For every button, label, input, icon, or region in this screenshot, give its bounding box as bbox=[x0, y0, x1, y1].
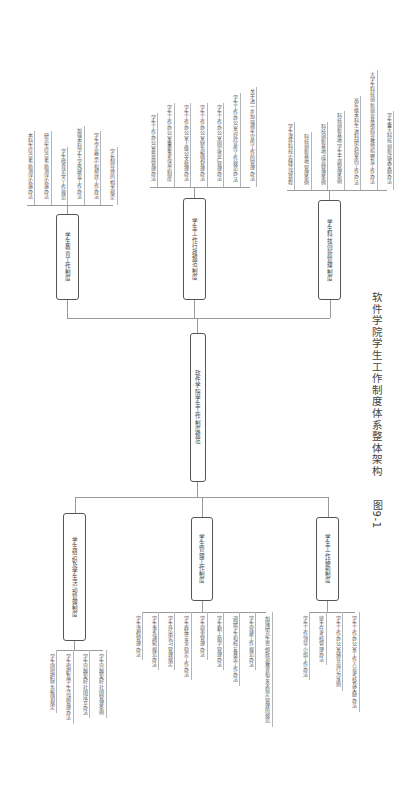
connector-root-bottom bbox=[197, 482, 198, 497]
leaf-item: 学生团组织财务报销规定 bbox=[49, 654, 56, 710]
leaf-connector bbox=[34, 131, 35, 205]
leaf-item: 学生群体安全稳定工作办法 bbox=[184, 616, 191, 677]
leaf-connector bbox=[158, 612, 159, 670]
leaf-item: 学生请假管理办法 bbox=[135, 616, 142, 657]
branch-label: 学生管理工作制度 bbox=[198, 534, 206, 584]
connector-root-top bbox=[197, 318, 198, 333]
leaf-connector bbox=[344, 111, 345, 190]
leaf-bus bbox=[142, 612, 266, 613]
leaf-item: 加强本科学生学风建设工作办法 bbox=[77, 128, 84, 199]
branch-label: 学生组织及学生活动管理制度 bbox=[71, 537, 79, 618]
leaf-connector bbox=[56, 650, 57, 713]
leaf-item: 研究生综合素质测评实施办法 bbox=[44, 133, 51, 199]
leaf-bus bbox=[57, 650, 103, 651]
leaf-item: 加强研究生思想政治教育和安全稳定管理的规范 bbox=[265, 616, 272, 723]
leaf-bus bbox=[27, 205, 113, 206]
branch-node-admin: 学生工作行政规范制度 bbox=[183, 198, 206, 300]
leaf-item: 学生勤工助学管理办法 bbox=[216, 616, 223, 667]
leaf-item: 大学生科技创新创业基地指导教师招聘及工作办法 bbox=[370, 72, 377, 184]
leaf-connector bbox=[89, 650, 90, 718]
leaf-item: 学生工作办公室上级公文处理办法 bbox=[183, 105, 190, 182]
leaf-item: 学生重大科技创新成果奖励办法 bbox=[386, 113, 393, 184]
leaf-item: 学生德育论文工作规范 bbox=[60, 149, 67, 200]
leaf-item: 学生外出实习管理规定 bbox=[167, 616, 174, 667]
leaf-item: 学生兴趣爱好社团成立办法 bbox=[82, 654, 89, 715]
leaf-connector bbox=[360, 96, 361, 190]
connector-top-3 bbox=[330, 300, 331, 318]
leaf-item: 学生课外科技实践活动章程 bbox=[287, 124, 294, 185]
branch-stem bbox=[329, 190, 330, 200]
leaf-item: 学生事务通知规范办法 bbox=[151, 616, 158, 667]
leaf-connector bbox=[190, 103, 191, 187]
leaf-connector bbox=[311, 132, 312, 190]
leaf-item: 学生工作办公室对外宣传工作规范办法 bbox=[233, 95, 240, 182]
leaf-connector bbox=[240, 93, 241, 187]
connector-bottom-4 bbox=[75, 497, 76, 513]
branch-stem bbox=[74, 641, 75, 650]
leaf-connector bbox=[377, 70, 378, 190]
branch-node-innovation: 学生科技创新管理制度 bbox=[318, 200, 341, 300]
branch-label: 学生工作行政规范制度 bbox=[191, 218, 199, 280]
leaf-connector bbox=[174, 103, 175, 187]
leaf-item: 学生党建工作规范办法 bbox=[248, 616, 255, 667]
leaf-item: 高年级本科生进科研实验室的工作办法 bbox=[353, 98, 360, 185]
leaf-connector bbox=[117, 147, 118, 205]
leaf-connector bbox=[174, 612, 175, 670]
leaf-connector bbox=[157, 113, 158, 187]
branch-label: 学生科技创新管理制度 bbox=[326, 219, 334, 281]
leaf-item: 学长制导师的相关规定 bbox=[110, 149, 117, 200]
leaf-connector bbox=[191, 612, 192, 680]
leaf-bus bbox=[287, 190, 387, 191]
leaf-connector bbox=[73, 650, 74, 724]
connector-top-2 bbox=[194, 300, 195, 318]
leaf-connector bbox=[327, 122, 328, 190]
branch-stem bbox=[194, 187, 195, 198]
caption-title: 软件学院学生工作制度体系整体架构 bbox=[370, 292, 382, 478]
leaf-connector bbox=[207, 612, 208, 660]
leaf-connector bbox=[272, 612, 273, 727]
leaf-item: 本科生综合素质测评实施办法 bbox=[27, 133, 34, 199]
leaf-connector bbox=[106, 650, 107, 718]
branch-node-management: 学生管理工作制度 bbox=[191, 517, 213, 601]
connector-top-bus bbox=[67, 318, 330, 319]
leaf-connector bbox=[223, 612, 224, 670]
connector-bottom-6 bbox=[328, 497, 329, 517]
leaf-connector bbox=[359, 612, 360, 712]
leaf-connector bbox=[84, 126, 85, 205]
branch-label: 学生工作辅助制度 bbox=[324, 534, 332, 584]
connector-top-1 bbox=[67, 300, 68, 318]
branch-node-education: 学生教育工作制度 bbox=[56, 214, 79, 300]
leaf-item: 学生学业警示和帮扶工作办法 bbox=[93, 133, 100, 199]
figure-caption: 软件学院学生工作制度体系整体架构 bbox=[369, 292, 384, 478]
leaf-item: 学生工作办公室财务报销管理办法 bbox=[200, 105, 207, 182]
connector-bottom-5 bbox=[202, 497, 203, 517]
leaf-item: 学生工作办公室工作人员考核及奖励办法 bbox=[352, 616, 359, 708]
leaf-connector bbox=[342, 612, 343, 691]
leaf-connector bbox=[256, 87, 257, 187]
leaf-connector bbox=[51, 131, 52, 205]
leaf-connector bbox=[67, 147, 68, 205]
branch-node-auxiliary: 学生工作辅助制度 bbox=[316, 517, 339, 601]
leaf-item: 科技创新基地学生干部管理条例 bbox=[337, 113, 344, 184]
branch-stem bbox=[202, 601, 203, 612]
leaf-item: 学生兴趣爱好社团管理条例 bbox=[99, 654, 106, 715]
leaf-connector bbox=[142, 612, 143, 660]
leaf-connector bbox=[100, 131, 101, 205]
leaf-item: 学生工作领导小组工作办法 bbox=[302, 616, 309, 677]
leaf-item: 调研学生和校友意见工作办法 bbox=[232, 616, 239, 682]
leaf-connector bbox=[207, 103, 208, 187]
leaf-item: 关于进一步加强师生宣传工作的管理办法 bbox=[249, 89, 256, 181]
leaf-connector bbox=[309, 612, 310, 680]
leaf-bus bbox=[309, 612, 355, 613]
leaf-connector bbox=[294, 122, 295, 190]
branch-stem bbox=[67, 205, 68, 214]
leaf-item: 学生工作办公室签章管理办法 bbox=[150, 115, 157, 181]
leaf-item: 学生组织及学生活动管理办法 bbox=[66, 654, 73, 720]
root-node: 软件学院学生工作制度规范 bbox=[190, 333, 206, 482]
root-node-label: 软件学院学生工作制度规范 bbox=[194, 370, 202, 444]
leaf-connector bbox=[239, 612, 240, 686]
leaf-item: 学生宿舍管理办法 bbox=[200, 616, 207, 657]
figure-number-wrap: 图9-1 bbox=[369, 500, 384, 539]
leaf-connector bbox=[393, 111, 394, 190]
leaf-connector bbox=[255, 612, 256, 670]
